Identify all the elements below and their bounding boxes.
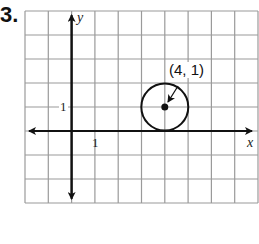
x-axis-label: x	[247, 135, 253, 151]
x-tick-label: 1	[92, 136, 99, 150]
y-axis-label: y	[77, 10, 83, 26]
y-tick-label: 1	[59, 100, 68, 114]
center-point	[161, 104, 168, 111]
label-pointer-arrow	[168, 86, 178, 102]
center-label: (4, 1)	[168, 62, 205, 78]
coordinate-graph	[0, 0, 259, 244]
